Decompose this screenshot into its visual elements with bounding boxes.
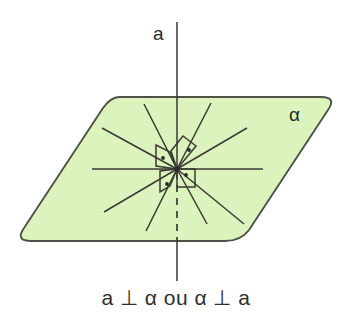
diagram-canvas <box>0 0 352 325</box>
right-angle-dot-upper-left <box>161 156 165 160</box>
geometry-figure: a α a ⊥ α ou α ⊥ a <box>0 0 352 325</box>
right-angle-dot-lower-left <box>165 182 169 186</box>
right-angle-dot-lower-right <box>184 173 188 177</box>
line-a-label: a <box>153 24 164 43</box>
figure-caption: a ⊥ α ou α ⊥ a <box>0 286 352 310</box>
right-angle-dot-upper-right <box>187 148 191 152</box>
foot-point <box>175 167 180 172</box>
plane-alpha-label: α <box>289 105 300 124</box>
